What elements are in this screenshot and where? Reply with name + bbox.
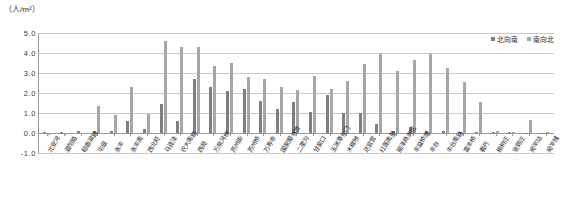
x-label-cell: 红莲南里: [371, 150, 388, 206]
x-label-cell: 西苑: [188, 150, 205, 206]
bar-north-south: [359, 113, 362, 133]
x-label-cell: 稻香湖路: [72, 150, 89, 206]
bar-south-north: [213, 66, 216, 133]
x-label-cell: 苏州街: [222, 150, 239, 206]
y-axis-unit-caption: （人/m²）: [4, 3, 40, 14]
bar-south-north: [330, 89, 333, 133]
bar-north-south: [276, 109, 279, 133]
x-label-cell: 丽泽商务区: [388, 150, 405, 206]
bar-south-north: [396, 71, 399, 133]
x-label-cell: 宛平城: [537, 150, 554, 206]
x-label-cell: 屯佃: [89, 150, 106, 206]
x-label-cell: 玉渊潭东门: [321, 150, 338, 206]
bar-south-north: [529, 120, 532, 133]
legend-label-north-south: 北向南: [497, 34, 518, 44]
x-label-cell: 丰台南路: [438, 150, 455, 206]
x-label-cell: 西北旺: [139, 150, 156, 206]
x-label-cell: 马连洼: [155, 150, 172, 206]
bar-north-south: [176, 121, 179, 133]
x-label-cell: 榆树庄: [487, 150, 504, 206]
bar-south-north: [263, 79, 266, 133]
x-label-cell: 农大南路: [172, 150, 189, 206]
x-label-cell: 永丰: [105, 150, 122, 206]
bar-north-south: [259, 101, 262, 133]
bar-north-south: [243, 89, 246, 133]
bar-north-south: [309, 112, 312, 133]
bar-south-north: [197, 47, 200, 133]
x-label-cell: 丰台: [421, 150, 438, 206]
y-tick-label: 3.0: [6, 69, 36, 78]
x-label-cell: 国家图书馆: [272, 150, 289, 206]
y-tick-label: 2.0: [6, 89, 36, 98]
x-label-cell: 二里沟: [288, 150, 305, 206]
bar-north-south: [209, 87, 212, 133]
y-tick-label: -1.0: [6, 149, 36, 158]
bar-south-north: [147, 114, 150, 133]
bar-north-south: [193, 79, 196, 133]
bar-north-south: [226, 91, 229, 133]
bar-south-north: [97, 106, 100, 133]
x-label-cell: 万泉河桥: [205, 150, 222, 206]
legend-item-north-south[interactable]: 北向南: [491, 34, 518, 44]
bar-south-north: [180, 47, 183, 133]
x-label-cell: 木樨地: [338, 150, 355, 206]
bar-south-north: [114, 115, 117, 133]
x-label-cell: 达官营: [355, 150, 372, 206]
legend-swatch-north-south: [491, 37, 495, 41]
x-label-cell: 看丹: [471, 150, 488, 206]
x-tick-mark: [438, 133, 455, 137]
bar-south-north: [446, 68, 449, 133]
x-label-cell: 永丰南: [122, 150, 139, 206]
bar-north-south: [160, 104, 163, 133]
bar-chart: （人/m²） -1.00.01.02.03.04.05.0 北安河温阳路稻香湖路…: [0, 0, 563, 206]
y-axis-tick-labels: -1.00.01.02.03.04.05.0: [0, 33, 36, 173]
x-label-cell: 张郭庄: [504, 150, 521, 206]
x-label-cell: 苏州桥: [238, 150, 255, 206]
legend-label-south-north: 南向北: [533, 34, 554, 44]
x-label-cell: 富丰桥: [454, 150, 471, 206]
bar-south-north: [164, 41, 167, 133]
x-label-cell: 万寿寺: [255, 150, 272, 206]
bar-south-north: [413, 60, 416, 133]
x-axis-tick-labels: 北安河温阳路稻香湖路屯佃永丰永丰南西北旺马连洼农大南路西苑万泉河桥苏州街苏州桥万…: [39, 150, 554, 206]
bar-south-north: [230, 63, 233, 133]
bar-south-north: [363, 64, 366, 133]
bar-south-north: [429, 54, 432, 133]
bar-south-north: [463, 82, 466, 133]
x-tick-mark: [105, 133, 122, 137]
y-tick-label: 0.0: [6, 129, 36, 138]
bar-north-south: [375, 124, 378, 133]
x-label-cell: 甘家口: [305, 150, 322, 206]
bar-south-north: [130, 87, 133, 133]
bar-south-north: [280, 87, 283, 133]
x-label-cell: 丰益桥南: [404, 150, 421, 206]
x-label-cell: 宛平站: [521, 150, 538, 206]
bar-south-north: [479, 102, 482, 133]
bar-south-north: [247, 77, 250, 133]
x-label-cell: 温阳路: [56, 150, 73, 206]
x-label-cell: 北安河: [39, 150, 56, 206]
bar-north-south: [126, 121, 129, 133]
x-tick-mark: [487, 133, 504, 137]
legend-item-south-north[interactable]: 南向北: [527, 34, 554, 44]
y-tick-label: 4.0: [6, 49, 36, 58]
y-tick-label: 1.0: [6, 109, 36, 118]
chart-legend: 北向南 南向北: [491, 34, 554, 44]
legend-swatch-south-north: [527, 37, 531, 41]
bar-south-north: [313, 76, 316, 133]
bar-north-south: [326, 95, 329, 133]
y-tick-label: 5.0: [6, 29, 36, 38]
bar-south-north: [379, 54, 382, 133]
